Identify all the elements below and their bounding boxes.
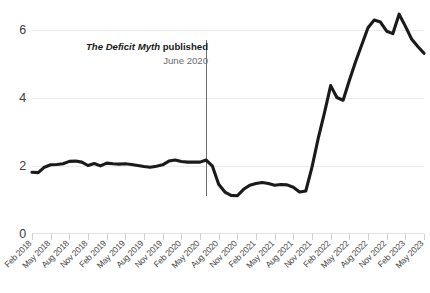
line-chart: 6420 Feb 2018May 2018Aug 2018Nov 2018Feb… bbox=[0, 0, 430, 293]
y-axis-tick-label: 6 bbox=[19, 23, 26, 37]
x-tick-marks-group bbox=[33, 234, 425, 240]
y-axis-labels-group: 6420 bbox=[19, 23, 26, 241]
y-axis-tick-label: 4 bbox=[19, 91, 26, 105]
x-axis-labels-group: Feb 2018May 2018Aug 2018Nov 2018Feb 2019… bbox=[2, 238, 425, 270]
annotation-title-rest: published bbox=[160, 41, 208, 52]
y-axis-tick-label: 2 bbox=[19, 159, 26, 173]
annotation-subtitle: June 2020 bbox=[163, 55, 208, 66]
chart-container: 6420 Feb 2018May 2018Aug 2018Nov 2018Feb… bbox=[0, 0, 430, 293]
annotation-title: The Deficit Myth published bbox=[86, 41, 208, 52]
annotation-title-emphasis: The Deficit Myth bbox=[86, 41, 160, 52]
